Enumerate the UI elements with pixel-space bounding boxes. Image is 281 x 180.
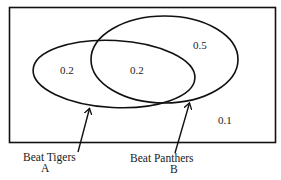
set-a-letter-label: A xyxy=(41,162,50,174)
set-b-only-value: 0.5 xyxy=(193,39,207,51)
set-a-only-value: 0.2 xyxy=(60,64,74,76)
intersection-value: 0.2 xyxy=(130,64,144,76)
universe-outside-value: 0.1 xyxy=(218,114,232,126)
set-b-ellipse xyxy=(91,16,238,103)
set-b-letter-label: B xyxy=(170,163,178,175)
set-b-name-label: Beat Panthers xyxy=(130,152,194,164)
set-a-arrow xyxy=(78,109,90,153)
set-a-ellipse xyxy=(31,36,196,111)
venn-diagram: 0.2 0.2 0.5 0.1 Beat Tigers A Beat Panth… xyxy=(0,0,281,180)
set-a-name-label: Beat Tigers xyxy=(23,151,76,164)
set-b-arrow xyxy=(175,103,190,153)
